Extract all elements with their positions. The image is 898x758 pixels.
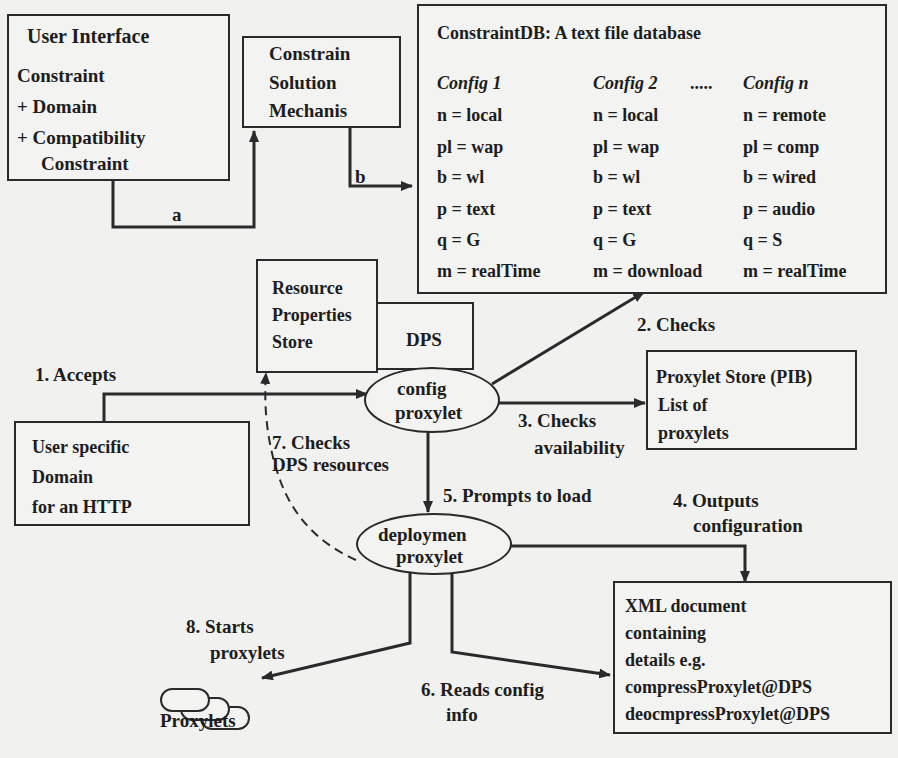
proxylets-label: Proxylets	[160, 711, 236, 730]
config-1-pl: pl = wap	[437, 138, 503, 156]
constraint-db-box: ConstraintDB: A text file database Confi…	[417, 4, 887, 294]
config-proxylet-node: config proxylet	[364, 367, 500, 433]
config-1-m: m = realTime	[437, 262, 541, 280]
ui-line-2: + Domain	[17, 97, 97, 116]
config-n-b: b = wired	[743, 168, 816, 186]
dps-label: DPS	[406, 330, 442, 349]
edge-label-checks-availability-1: 3. Checks	[518, 411, 596, 430]
config-n-header: Config n	[743, 74, 809, 92]
solution-mechanism-box: Constrain Solution Mechanis	[242, 36, 401, 128]
config-1-header: Config 1	[437, 74, 502, 92]
config-n-pl: pl = comp	[743, 138, 819, 156]
ui-line-4: Constraint	[41, 154, 129, 173]
ui-line-3: + Compatibility	[17, 128, 146, 147]
config-1-n: n = local	[437, 106, 502, 124]
config-1-q: q = G	[437, 231, 480, 249]
config-2-pl: pl = wap	[593, 138, 659, 156]
mechanism-line-2: Solution	[269, 73, 337, 92]
config-2-p: p = text	[593, 200, 651, 218]
edge-label-accepts: 1. Accepts	[35, 365, 116, 384]
edge-checks	[492, 292, 644, 384]
proxylet-store-line-3: proxylets	[658, 424, 729, 442]
mechanism-line-1: Constrain	[269, 44, 350, 63]
edge-label-a: a	[172, 205, 182, 224]
proxylet-store-line-1: Proxylet Store (PIB)	[656, 368, 812, 386]
edge-label-outputs-config-2: configuration	[693, 516, 803, 535]
constraint-db-title: ConstraintDB: A text file database	[437, 24, 701, 42]
user-domain-box: User specific Domain for an HTTP	[14, 421, 250, 526]
resource-line-3: Store	[272, 333, 313, 351]
user-interface-box: User Interface Constraint + Domain + Com…	[7, 14, 230, 181]
xml-line-3: details e.g.	[625, 651, 706, 669]
proxylet-store-line-2: List of	[658, 396, 708, 414]
ui-line-1: Constraint	[17, 66, 105, 85]
xml-document-box: XML document containing details e.g. com…	[613, 581, 892, 734]
edge-label-reads-config-2: info	[446, 705, 478, 724]
resource-line-2: Properties	[272, 306, 352, 324]
edge-label-checks-dps-2: DPS resources	[272, 455, 389, 474]
config-n-q: q = S	[743, 231, 782, 249]
edge-outputs-config	[510, 546, 745, 582]
edge-label-checks-dps-1: 7. Checks	[272, 433, 350, 452]
config-2-q: q = G	[593, 231, 636, 249]
xml-line-5: deocmpressProxylet@DPS	[625, 705, 830, 723]
resource-properties-store-box: Resource Properties Store	[256, 259, 378, 373]
config-2-b: b = wl	[593, 168, 640, 186]
user-domain-line-2: Domain	[32, 468, 93, 486]
xml-line-2: containing	[625, 624, 706, 642]
edge-reads-config	[452, 571, 610, 675]
config-1-p: p = text	[437, 200, 495, 218]
edge-label-b: b	[355, 167, 366, 186]
config-n-n: n = remote	[743, 106, 826, 124]
edge-label-checks-availability-2: availability	[534, 438, 625, 457]
edge-label-prompts-load: 5. Prompts to load	[443, 486, 591, 505]
config-proxylet-line-1: config	[397, 379, 447, 398]
user-domain-line-1: User specific	[32, 438, 129, 456]
xml-line-4: compressProxylet@DPS	[625, 678, 812, 696]
config-1-b: b = wl	[437, 168, 484, 186]
deployment-proxylet-node: deploymen proxylet	[356, 513, 512, 575]
user-domain-line-3: for an HTTP	[32, 498, 132, 516]
config-2-header: Config 2	[593, 74, 658, 92]
config-proxylet-line-2: proxylet	[395, 403, 462, 422]
edge-accepts	[104, 394, 367, 422]
edge-label-outputs-config-1: 4. Outputs	[673, 491, 759, 510]
edge-label-starts-proxylets-2: proxylets	[210, 643, 285, 662]
mechanism-line-3: Mechanis	[269, 101, 347, 120]
config-2-m: m = download	[593, 262, 702, 280]
edge-label-reads-config-1: 6. Reads config	[421, 680, 544, 699]
edge-label-checks: 2. Checks	[637, 315, 715, 334]
config-ellipsis: .....	[690, 74, 713, 92]
deployment-line-1: deploymen	[378, 525, 467, 544]
xml-line-1: XML document	[625, 597, 747, 615]
proxylet-store-box: Proxylet Store (PIB) List of proxylets	[646, 350, 857, 450]
user-interface-title: User Interface	[27, 26, 149, 46]
deployment-line-2: proxylet	[396, 547, 463, 566]
dps-box: DPS	[376, 302, 474, 370]
config-n-p: p = audio	[743, 200, 815, 218]
edge-label-starts-proxylets-1: 8. Starts	[186, 617, 254, 636]
config-n-m: m = realTime	[743, 262, 847, 280]
config-2-n: n = local	[593, 106, 658, 124]
resource-line-1: Resource	[272, 279, 343, 297]
